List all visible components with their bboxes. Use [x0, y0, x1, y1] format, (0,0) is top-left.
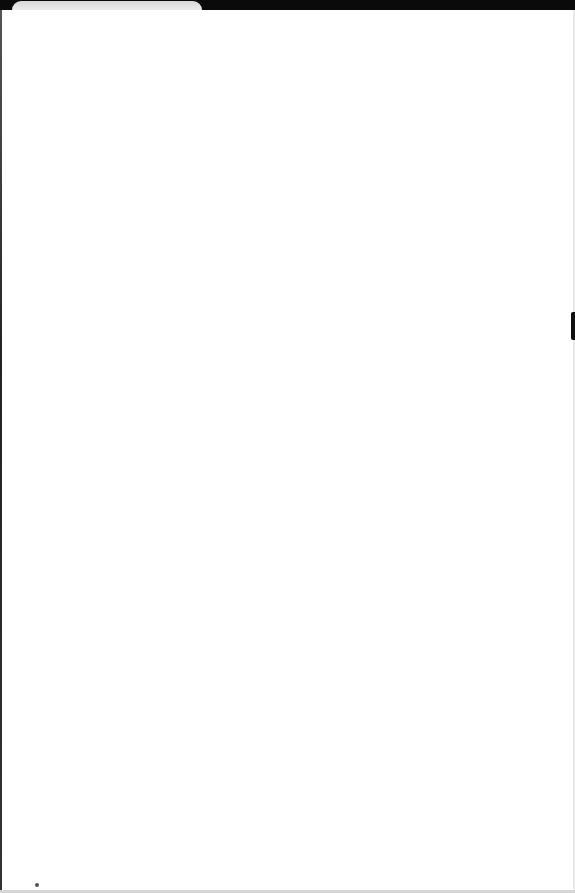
blank-page-canvas: [2, 10, 573, 890]
scrollbar-thumb[interactable]: [571, 312, 575, 340]
status-dot-icon: [35, 883, 39, 887]
